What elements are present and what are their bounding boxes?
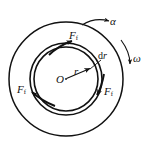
omega-arc-arrow [121, 40, 130, 64]
label-ring-thickness-variable: r [103, 50, 107, 61]
label-angular-acceleration: α [110, 16, 116, 27]
label-center-origin: O [56, 74, 64, 85]
label-radius: r [74, 66, 78, 77]
alpha-arc-arrow [82, 20, 109, 25]
label-ring-thickness: dr [98, 51, 107, 61]
label-friction-force-top: Ff [69, 30, 78, 42]
center-point [65, 78, 67, 80]
label-friction-force-right: Ff [104, 86, 113, 98]
label-friction-force-left: Ff [17, 84, 26, 96]
label-angular-velocity: ω [133, 53, 141, 64]
figure-canvas: Ff Ff Ff r O dr α ω [0, 0, 152, 150]
